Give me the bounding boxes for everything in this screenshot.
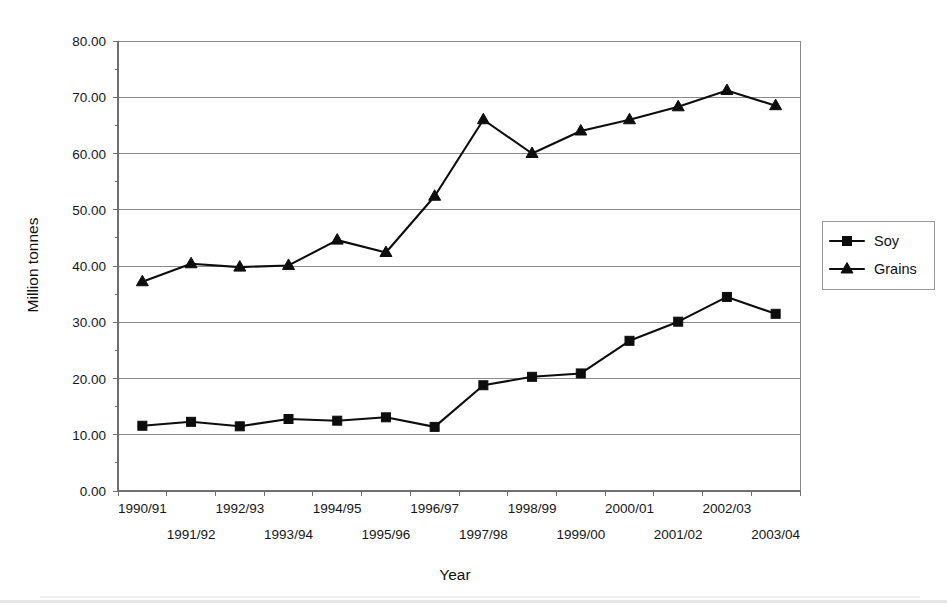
x-tick-label: 1990/91: [118, 501, 167, 516]
square-marker: [479, 381, 488, 390]
y-tick-label: 50.00: [72, 203, 106, 218]
y-tick-label: 80.00: [72, 34, 106, 49]
legend-label: Soy: [874, 233, 900, 249]
x-tick-label: 1992/93: [215, 501, 264, 516]
x-axis-title: Year: [439, 566, 470, 583]
x-tick-label: 1991/92: [167, 527, 216, 542]
x-tick-label: 1993/94: [264, 527, 313, 542]
y-tick-label: 0.00: [80, 484, 106, 499]
line-chart: 0.0010.0020.0030.0040.0050.0060.0070.008…: [0, 0, 947, 608]
square-marker: [625, 336, 634, 345]
x-tick-label: 2003/04: [751, 527, 800, 542]
square-marker: [674, 317, 683, 326]
square-marker: [771, 309, 780, 318]
y-tick-labels: 0.0010.0020.0030.0040.0050.0060.0070.008…: [72, 34, 106, 499]
y-tick-label: 40.00: [72, 259, 106, 274]
x-tick-label: 1999/00: [556, 527, 605, 542]
y-axis-title: Million tonnes: [24, 217, 41, 312]
chart-canvas: 0.0010.0020.0030.0040.0050.0060.0070.008…: [0, 0, 947, 608]
square-marker: [576, 369, 585, 378]
square-marker: [381, 413, 390, 422]
x-tick-label: 2002/03: [703, 501, 752, 516]
square-marker: [235, 422, 244, 431]
y-tick-label: 70.00: [72, 90, 106, 105]
x-tick-label: 1998/99: [508, 501, 557, 516]
square-marker: [284, 415, 293, 424]
x-tick-label: 1997/98: [459, 527, 508, 542]
x-tick-label: 2001/02: [654, 527, 703, 542]
square-marker: [843, 237, 852, 246]
x-tick-label: 1996/97: [410, 501, 459, 516]
square-marker: [430, 422, 439, 431]
square-marker: [187, 417, 196, 426]
y-tick-label: 20.00: [72, 372, 106, 387]
legend-box: [822, 221, 934, 289]
square-marker: [528, 372, 537, 381]
square-marker: [333, 416, 342, 425]
x-tick-label: 2000/01: [605, 501, 654, 516]
y-tick-label: 10.00: [72, 428, 106, 443]
x-tick-label: 1995/96: [362, 527, 411, 542]
chart-legend: SoyGrains: [822, 221, 934, 289]
square-marker: [138, 421, 147, 430]
x-tick-label: 1994/95: [313, 501, 362, 516]
y-tick-label: 30.00: [72, 315, 106, 330]
chart-background: [0, 0, 947, 608]
legend-label: Grains: [874, 261, 917, 277]
y-tick-label: 60.00: [72, 147, 106, 162]
square-marker: [722, 292, 731, 301]
